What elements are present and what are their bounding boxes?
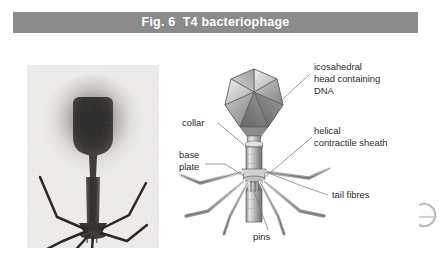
label-icosahedral-head-line3: DNA bbox=[314, 85, 335, 96]
leader-sheath bbox=[264, 137, 312, 178]
label-tail-fibres: tail fibres bbox=[332, 189, 370, 200]
label-base-plate-line1: base bbox=[179, 149, 199, 160]
label-base-plate-line2: plate bbox=[179, 161, 199, 172]
figure-title-bar: Fig. 6 T4 bacteriophage bbox=[13, 12, 418, 33]
label-icosahedral-head-line1: icosahedral bbox=[314, 61, 362, 72]
label-icosahedral-head-line2: head containing bbox=[314, 73, 380, 84]
label-sheath-line2: contractile sheath bbox=[314, 137, 387, 148]
figure-title: Fig. 6 T4 bacteriophage bbox=[142, 16, 290, 29]
helical-contractile-sheath-shape bbox=[246, 147, 262, 222]
label-pins: pins bbox=[253, 231, 271, 242]
label-sheath-line1: helical bbox=[314, 125, 341, 136]
electron-micrograph bbox=[27, 65, 159, 248]
micrograph-image bbox=[27, 65, 159, 248]
icosahedral-head-shape bbox=[225, 69, 283, 136]
page-corner-ring-artifact bbox=[409, 200, 439, 230]
phage-diagram: icosahedral head containing DNA collar h… bbox=[178, 48, 439, 275]
label-collar: collar bbox=[182, 117, 204, 128]
